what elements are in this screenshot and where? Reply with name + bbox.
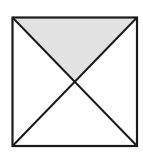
shaded-top-triangle <box>13 18 138 82</box>
square-diagonals-diagram <box>0 0 143 162</box>
